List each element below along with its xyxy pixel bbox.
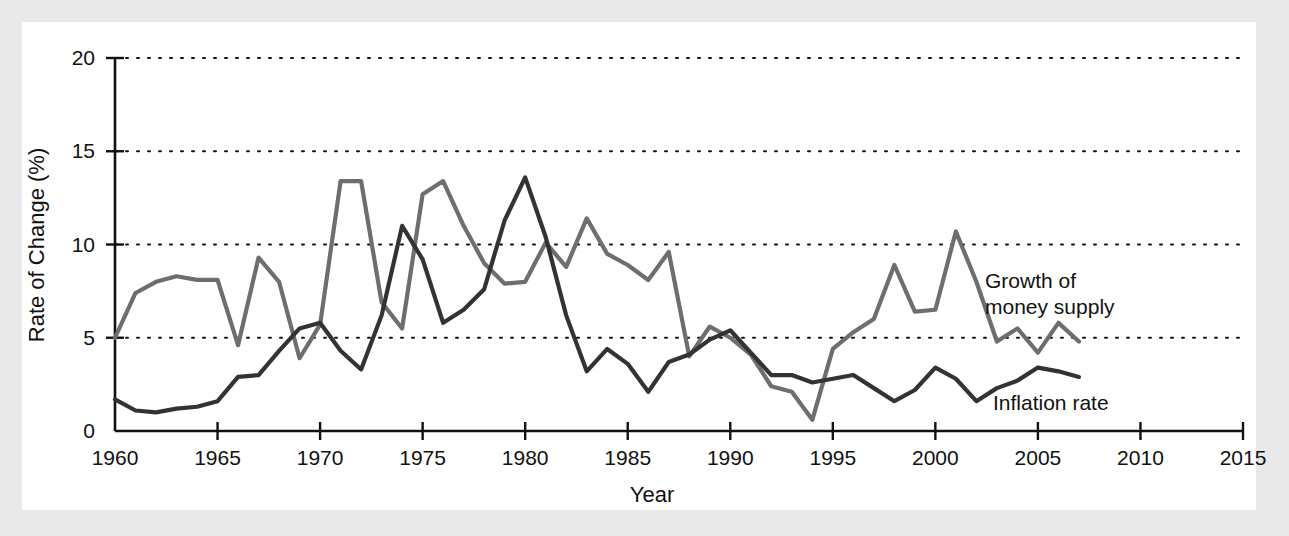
y-tick-label-15: 15 bbox=[72, 139, 95, 162]
x-tick-label-1990: 1990 bbox=[707, 446, 754, 469]
line-chart: 05101520 1960196519701975198019851990199… bbox=[0, 0, 1289, 536]
x-tick-label-2005: 2005 bbox=[1015, 446, 1062, 469]
y-axis-tick-labels: 05101520 bbox=[72, 46, 95, 442]
x-tick-label-1975: 1975 bbox=[399, 446, 446, 469]
series-annotation-money-supply-line2: money supply bbox=[985, 295, 1115, 318]
y-tick-label-5: 5 bbox=[83, 326, 95, 349]
x-tick-label-1980: 1980 bbox=[502, 446, 549, 469]
series-line-inflation-rate bbox=[115, 177, 1079, 412]
x-tick-label-2015: 2015 bbox=[1220, 446, 1267, 469]
y-tick-label-10: 10 bbox=[72, 233, 95, 256]
x-axis-title: Year bbox=[630, 482, 674, 507]
series-annotation-inflation-rate: Inflation rate bbox=[993, 391, 1109, 414]
x-axis-tick-labels: 1960196519701975198019851990199520002005… bbox=[92, 446, 1267, 469]
x-tick-label-1985: 1985 bbox=[604, 446, 651, 469]
x-tick-label-1970: 1970 bbox=[297, 446, 344, 469]
x-tick-label-2000: 2000 bbox=[912, 446, 959, 469]
x-tick-label-1965: 1965 bbox=[194, 446, 241, 469]
series-line-growth-of-money-supply bbox=[115, 181, 1079, 420]
x-tick-label-1960: 1960 bbox=[92, 446, 139, 469]
y-axis-title: Rate of Change (%) bbox=[24, 148, 49, 342]
chart-figure: 05101520 1960196519701975198019851990199… bbox=[0, 0, 1289, 536]
series-annotation-money-supply-line1: Growth of bbox=[985, 269, 1076, 292]
y-tick-label-0: 0 bbox=[83, 419, 95, 442]
y-tick-label-20: 20 bbox=[72, 46, 95, 69]
data-series bbox=[115, 177, 1079, 419]
x-tick-label-2010: 2010 bbox=[1117, 446, 1164, 469]
x-tick-label-1995: 1995 bbox=[809, 446, 856, 469]
